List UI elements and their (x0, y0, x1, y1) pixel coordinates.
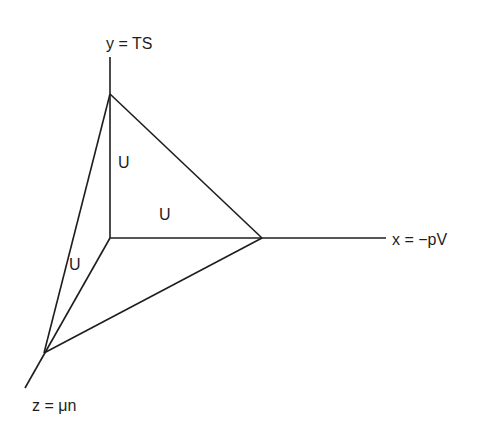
edge-y-to-z (44, 94, 110, 353)
z-axis-label: z = μn (32, 398, 76, 414)
x-axis-label: x = −pV (392, 232, 447, 248)
face-xy-label: U (118, 155, 130, 171)
thermodynamic-axes-diagram (0, 0, 489, 429)
face-yx-bottom-label: U (159, 207, 171, 223)
y-axis-label: y = TS (106, 36, 152, 52)
edge-y-to-x (110, 94, 262, 238)
face-yz-label: U (69, 257, 81, 273)
